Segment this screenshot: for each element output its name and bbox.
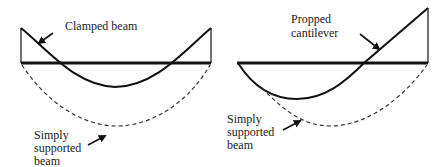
clamped-beam-label: Clamped beam (65, 20, 137, 33)
left-simply-label-line3: beam (34, 155, 60, 167)
clamped-moment-curve (21, 28, 211, 87)
right-simply-supported-curve (262, 65, 427, 126)
clamped-beam-arrow (39, 33, 53, 43)
left-simply-supported-curve (22, 65, 210, 126)
right-simply-label-line3: beam (227, 139, 253, 152)
propped-cantilever-label-line1: Propped (291, 13, 331, 26)
propped-cantilever-label-line2: cantilever (291, 27, 338, 40)
right-simply-supported-arrow (283, 121, 300, 130)
propped-cantilever-moment-curve (238, 8, 428, 99)
propped-cantilever-arrow (360, 34, 379, 49)
left-simply-supported-arrow (88, 136, 105, 145)
moment-diagrams-figure: Clamped beam Simply supported beam Propp… (0, 0, 446, 167)
